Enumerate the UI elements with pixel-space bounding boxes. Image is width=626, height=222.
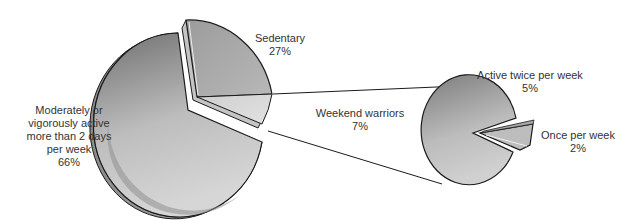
label-percent: 5% [470, 82, 590, 95]
label-percent: 2% [535, 142, 621, 155]
label-name: Sedentary [248, 32, 312, 45]
label-weekend-warriors: Weekend warriors 7% [310, 107, 410, 133]
label-moderately-active: Moderately or vigorously active more tha… [14, 104, 124, 169]
label-line: per week [14, 143, 124, 156]
label-percent: 27% [248, 45, 312, 58]
label-once-per-week: Once per week 2% [535, 129, 621, 155]
label-line: more than 2 days [14, 130, 124, 143]
label-line: Moderately or [14, 104, 124, 117]
label-percent: 7% [310, 120, 410, 133]
label-name: Weekend warriors [310, 107, 410, 120]
label-line: vigorously active [14, 117, 124, 130]
label-name: Once per week [535, 129, 621, 142]
label-percent: 66% [14, 156, 124, 169]
label-sedentary: Sedentary 27% [248, 32, 312, 58]
label-name: Active twice per week [470, 69, 590, 82]
label-active-twice: Active twice per week 5% [470, 69, 590, 95]
